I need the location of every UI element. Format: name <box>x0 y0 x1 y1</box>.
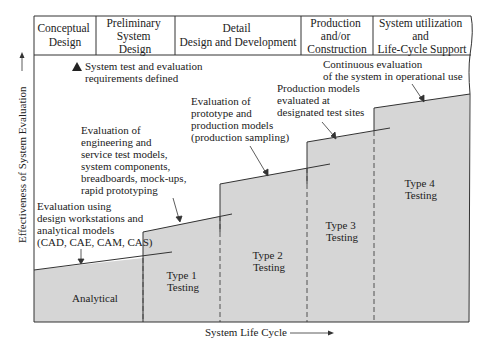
arrow-type2 <box>250 146 266 173</box>
header-phases: Conceptual Design Preliminary System Des… <box>37 17 467 56</box>
y-axis-label: Effectiveness of System Evaluation <box>16 86 28 243</box>
annotation-type3: Production models evaluated at designate… <box>277 82 364 118</box>
header-phase-detail: Detail Design and Development <box>180 22 298 49</box>
x-axis-label: System Life Cycle <box>205 326 287 338</box>
annotation-analytical: Evaluation using design workstations and… <box>37 200 153 249</box>
arrow-type3 <box>322 122 334 136</box>
arrowhead-icon <box>263 169 268 176</box>
annotation-type1: Evaluation of engineering and service te… <box>81 124 189 196</box>
header-phase-conceptual: Conceptual Design <box>37 22 92 49</box>
life-cycle-evaluation-diagram: Conceptual Design Preliminary System Des… <box>0 0 487 353</box>
legend-text: System test and evaluation requirements … <box>85 60 205 84</box>
frame-right-torn <box>469 16 472 322</box>
stage-label-type1: Type 1 Testing <box>167 269 200 293</box>
header-phase-preliminary: Preliminary System Design <box>106 17 163 56</box>
header-phase-utilization: System utilization and Life-Cycle Suppor… <box>377 17 467 56</box>
stage-label-type3: Type 3 Testing <box>326 219 359 243</box>
stage-region-type2 <box>220 168 307 322</box>
header-phase-production: Production and/or Construction <box>307 17 367 55</box>
triangle-icon <box>72 62 82 71</box>
stage-label-type4: Type 4 Testing <box>405 177 438 201</box>
annotation-type2: Evaluation of prototype and production m… <box>191 95 289 144</box>
stage-label-analytical: Analytical <box>72 292 118 304</box>
arrow-right-icon <box>328 331 334 336</box>
arrow-up-icon <box>20 52 25 58</box>
annotation-type4: Continuous evaluation of the system in o… <box>323 58 463 82</box>
arrowhead-icon <box>176 216 182 222</box>
arrow-type1 <box>173 198 179 219</box>
stage-label-type2: Type 2 Testing <box>253 249 286 273</box>
